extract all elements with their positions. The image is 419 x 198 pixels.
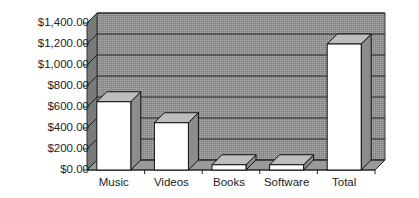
x-tick-label: Books (199, 176, 259, 188)
x-tick-label: Music (84, 176, 144, 188)
y-tick-label: $600.00 (47, 100, 89, 112)
y-tick-label: $1,400.00 (38, 16, 89, 28)
bar-side (361, 34, 371, 170)
bar-total (327, 44, 361, 170)
x-tick-label: Videos (141, 176, 201, 188)
bar-books (212, 165, 246, 170)
bar-music (97, 102, 131, 170)
bar-videos (154, 123, 188, 170)
y-tick-label: $0.00 (60, 163, 89, 175)
y-tick-label: $200.00 (47, 142, 89, 154)
bar-side (131, 92, 141, 170)
y-tick-label: $1,000.00 (38, 58, 89, 70)
x-tick-label: Total (314, 176, 374, 188)
y-tick-label: $1,200.00 (38, 37, 89, 49)
y-tick-label: $800.00 (47, 79, 89, 91)
x-tick-label: Software (257, 176, 317, 188)
y-tick-label: $400.00 (47, 121, 89, 133)
bar-software (270, 165, 304, 170)
